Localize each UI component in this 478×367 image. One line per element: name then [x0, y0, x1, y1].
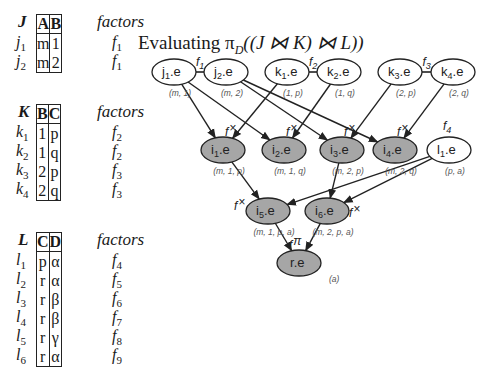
node-label: k3.e	[388, 64, 410, 81]
node-tuple: (m, 2, q)	[385, 166, 417, 176]
node-tuple: (m, 1, q)	[274, 166, 306, 176]
operator-label: f×	[397, 121, 408, 139]
graph-nodes: j1.e(m, 1)j2.e(m, 2)k1.e(1, p)k2.e(1, q)…	[152, 59, 475, 284]
dependency-arrow	[287, 156, 430, 204]
node-label: i5.e	[256, 203, 275, 220]
node-label: r.e	[290, 255, 304, 270]
row-label: l6	[16, 346, 26, 366]
dependency-arrow	[243, 80, 377, 142]
node-label: i2.e	[272, 142, 291, 159]
table-cell: α	[49, 347, 62, 367]
node-k2: k2.e(1, q)	[317, 59, 361, 98]
node-tuple: (m, 2)	[221, 88, 243, 98]
node-label: k2.e	[327, 64, 349, 81]
node-label: j1.e	[161, 64, 181, 81]
node-i1: i1.e(m, 1, p)	[201, 137, 245, 176]
node-tuple: (m, 1)	[169, 88, 191, 98]
table-row: rγ	[37, 328, 62, 347]
factor-label: f4	[443, 119, 451, 135]
row-factor: f8	[112, 327, 122, 347]
node-tuple: (1, q)	[335, 88, 355, 98]
operator-label: f×	[344, 121, 355, 139]
table-row: rα	[37, 347, 62, 367]
node-label: i4.e	[383, 142, 402, 159]
node-tuple: (2, p)	[396, 88, 416, 98]
operator-label: f×	[234, 195, 245, 213]
node-tuple: (p, a)	[445, 166, 465, 176]
row-label: l5	[16, 327, 26, 347]
node-label: k1.e	[275, 64, 297, 81]
node-label: j2.e	[213, 64, 233, 81]
factor-label: f1	[196, 55, 204, 71]
node-i3: i3.e(m, 2, p)	[320, 137, 364, 176]
node-k1: k1.e(1, p)	[265, 59, 309, 98]
node-tuple: (m, 1, p)	[213, 166, 245, 176]
operator-label: f×	[286, 121, 297, 139]
table-cell: r	[37, 328, 50, 347]
node-l1: l1.e(p, a)	[427, 137, 471, 176]
node-i4: i4.e(m, 2, q)	[373, 137, 417, 176]
node-i2: i2.e(m, 1, q)	[262, 137, 306, 176]
node-label: i3.e	[330, 142, 349, 159]
factor-label: f3	[423, 55, 431, 71]
node-tuple: (m, 1, p, a)	[253, 227, 294, 237]
node-tuple: (m, 2, p)	[332, 166, 364, 176]
node-tuple: (1, p)	[283, 88, 303, 98]
node-j1: j1.e(m, 1)	[152, 59, 196, 98]
row-factor: f9	[112, 346, 122, 366]
node-label: l1.e	[437, 142, 456, 159]
node-tuple: (a)	[329, 274, 340, 284]
node-i6: i6.e(m, 2, p, a)	[305, 198, 354, 237]
dependency-arrow	[351, 84, 391, 138]
table-cell: r	[37, 347, 50, 367]
node-j2: j2.e(m, 2)	[204, 59, 248, 98]
node-label: i1.e	[211, 142, 230, 159]
operator-label: f×	[349, 202, 360, 220]
factor-label: f2	[309, 55, 317, 71]
node-tuple: (m, 2, p, a)	[312, 227, 353, 237]
node-tuple: (2, q)	[449, 88, 469, 98]
node-label: i6.e	[315, 203, 334, 220]
table-cell: γ	[49, 328, 62, 347]
node-label: k4.e	[441, 64, 463, 81]
node-r: r.e(a)	[277, 250, 340, 284]
